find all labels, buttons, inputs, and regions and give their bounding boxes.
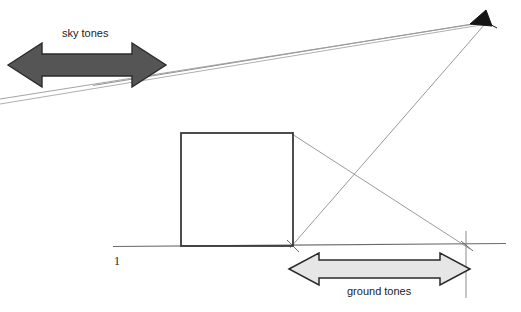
picture-plane-box xyxy=(181,133,293,246)
plane-number-label: 1 xyxy=(114,254,120,269)
sky-tones-arrow-icon xyxy=(8,43,166,87)
construction-line-vp-to-box-bottom-right xyxy=(290,24,485,248)
ground-tones-label: ground tones xyxy=(347,285,411,297)
horizon-right-tick-icon xyxy=(461,241,473,251)
sky-tones-label: sky tones xyxy=(62,27,108,39)
diagram-canvas xyxy=(0,0,521,312)
construction-line-box-top-right-to-horizon-right xyxy=(292,134,470,249)
perspective-diagram: sky tones ground tones 1 xyxy=(0,0,521,312)
ground-tones-arrow-icon xyxy=(289,253,470,285)
horizon-line xyxy=(113,244,506,247)
